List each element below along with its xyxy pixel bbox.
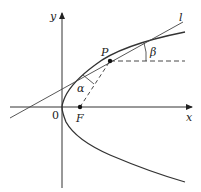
angle-alpha-label: α	[77, 82, 85, 95]
angle-beta-label: β	[149, 46, 156, 59]
tangent-line-label: l	[179, 11, 183, 24]
focal-dashed-line	[80, 61, 110, 107]
point-P	[108, 59, 112, 63]
point-F	[78, 105, 82, 109]
angle-alpha-arc	[83, 75, 94, 84]
x-axis-label: x	[186, 111, 193, 124]
point-P-label: P	[100, 46, 109, 59]
angle-beta-arc	[144, 43, 146, 61]
parabola-diagram: y x 0 F P l α β	[0, 0, 201, 192]
origin-label: 0	[52, 109, 59, 122]
focus-label: F	[75, 112, 84, 125]
tangent-line-l	[10, 22, 183, 118]
y-axis-label: y	[49, 10, 57, 23]
